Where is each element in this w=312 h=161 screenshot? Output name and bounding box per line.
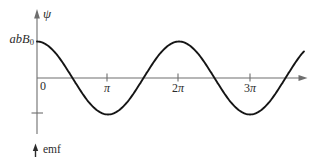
x-tick-label-pi: π [100,82,114,94]
amplitude-label-sub: 0 [30,37,34,47]
x-axis-arrow-icon [299,75,308,81]
amplitude-label: abB0 [4,33,34,47]
y-axis-label: ψ [43,7,51,20]
figure-canvas [0,0,312,161]
emf-axis-arrow-icon [33,144,38,152]
flux-figure: ψ abB0 0 π 2π 3π emf [0,0,312,161]
emf-label: emf [43,144,61,156]
x-tick-label-3pi: 3π [239,82,261,94]
x-tick-label-2pi-sym: π [178,81,184,95]
origin-label: 0 [40,80,46,92]
amplitude-label-main: abB [10,32,30,46]
y-axis-arrow-icon [34,9,40,19]
x-tick-label-2pi: 2π [167,82,189,94]
x-tick-label-3pi-sym: π [250,81,256,95]
